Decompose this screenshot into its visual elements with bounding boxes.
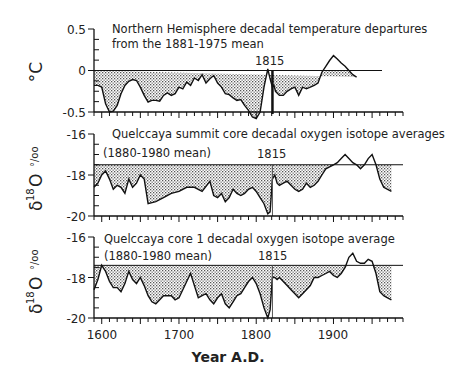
panel2-subtitle: (1880-1980 mean) xyxy=(103,146,211,160)
panel3-ytick-neg16: -16 xyxy=(66,231,86,245)
xtick-1700: 1700 xyxy=(164,328,195,342)
svg-text:°/oo: °/oo xyxy=(29,249,40,270)
panel2-ylabel: δ 18 O °/oo xyxy=(25,146,46,211)
svg-text:δ: δ xyxy=(26,304,46,314)
x-axis-label: Year A.D. xyxy=(191,349,265,365)
svg-text:O: O xyxy=(26,277,46,290)
panel2-shaded-area xyxy=(94,165,391,214)
panel3-title: Quelccaya core 1 decadal oxygen isotope … xyxy=(104,232,395,246)
panel-temperature: Northern Hemisphere decadal temperature … xyxy=(26,22,427,120)
xtick-1600: 1600 xyxy=(87,328,118,342)
svg-text:O: O xyxy=(26,174,46,187)
panel3-ylabel: δ 18 O °/oo xyxy=(25,249,46,314)
panel2-ytick-neg20: -20 xyxy=(66,210,86,224)
panel1-ytick-0: 0 xyxy=(78,64,86,78)
panel3-annotation-1815: 1815 xyxy=(258,249,287,263)
svg-text:18: 18 xyxy=(25,188,36,201)
panel1-annotation-1815: 1815 xyxy=(255,54,284,68)
xtick-1900: 1900 xyxy=(318,328,349,342)
panel1-ylabel: °C xyxy=(26,62,46,82)
panel3-ytick-neg20: -20 xyxy=(66,312,86,326)
panel2-annotation-1815: 1815 xyxy=(257,147,286,161)
panel3-ytick-neg18: -18 xyxy=(66,272,86,286)
panel2-ytick-neg16: -16 xyxy=(66,128,86,142)
panel1-ytick-neg0.5: -0.5 xyxy=(63,106,86,120)
panel-summit-core: Quelccaya summit core decadal oxygen iso… xyxy=(25,127,445,224)
panel1-title-line1: Northern Hemisphere decadal temperature … xyxy=(112,22,427,36)
panel2-title: Quelccaya summit core decadal oxygen iso… xyxy=(112,127,445,141)
panel-core1: Quelccaya core 1 decadal oxygen isotope … xyxy=(25,231,403,365)
svg-text:18: 18 xyxy=(25,291,36,304)
svg-text:°/oo: °/oo xyxy=(29,146,40,167)
panel3-subtitle: (1880-1980 mean) xyxy=(104,249,212,263)
panel1-title-line2: from the 1881-1975 mean xyxy=(112,37,264,51)
svg-text:δ: δ xyxy=(26,201,46,211)
chart-figure: Northern Hemisphere decadal temperature … xyxy=(0,0,465,386)
panel2-ytick-neg18: -18 xyxy=(66,169,86,183)
xtick-1800: 1800 xyxy=(241,328,272,342)
panel1-ytick-0.5: 0.5 xyxy=(67,23,86,37)
